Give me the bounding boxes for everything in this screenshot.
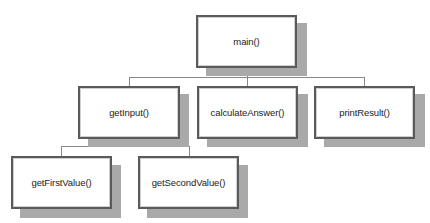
getfirstvalue-node-label: getFirstValue() — [31, 177, 91, 188]
printresult-node-label: printResult() — [339, 107, 389, 118]
getfirstvalue-node: getFirstValue() — [11, 156, 112, 209]
getsecondvalue-node: getSecondValue() — [138, 156, 239, 209]
main-node: main() — [196, 15, 297, 68]
getinput-node: getInput() — [78, 86, 180, 139]
calculateanswer-node: calculateAnswer() — [197, 86, 298, 139]
calculateanswer-node-label: calculateAnswer() — [211, 107, 285, 118]
printresult-node: printResult() — [314, 86, 415, 139]
connector-to-getsecondvalue — [189, 146, 190, 156]
connector-to-getfirstvalue — [61, 146, 62, 156]
hierarchy-diagram: main() getInput() calculateAnswer() prin… — [0, 0, 430, 223]
main-node-label: main() — [233, 36, 259, 47]
getinput-node-label: getInput() — [109, 107, 149, 118]
getsecondvalue-node-label: getSecondValue() — [152, 177, 226, 188]
